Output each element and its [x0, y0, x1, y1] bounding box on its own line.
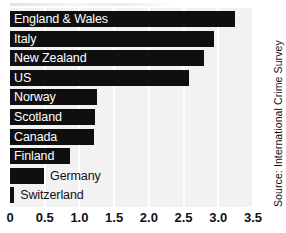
bar-row: Finland [10, 148, 253, 164]
source-note: Source: International Crime Survey [270, 8, 286, 207]
bar-row: Italy [10, 31, 253, 47]
bar-row: England & Wales [10, 11, 253, 27]
x-axis: 00.51.01.52.02.53.03.5 [0, 209, 286, 231]
x-tick-2.0: 2.0 [140, 209, 158, 227]
clipped-title-strip [10, 0, 253, 7]
bar-italy [10, 31, 214, 47]
x-tick-3.5: 3.5 [244, 209, 262, 227]
bar-label: Switzerland [20, 187, 84, 203]
x-tick-0.5: 0.5 [36, 209, 54, 227]
bar-us [10, 70, 189, 86]
bar-label: Finland [14, 148, 54, 164]
bar-chart: England & WalesItalyNew ZealandUSNorwayS… [0, 0, 286, 233]
bar-label: England & Wales [14, 11, 108, 27]
x-tick-2.5: 2.5 [175, 209, 193, 227]
plot-area: England & WalesItalyNew ZealandUSNorwayS… [10, 8, 253, 207]
bar-row: Norway [10, 89, 253, 105]
bar-row: Switzerland [10, 187, 253, 203]
bar-germany [10, 168, 44, 184]
x-tick-3.0: 3.0 [209, 209, 227, 227]
bar-rows: England & WalesItalyNew ZealandUSNorwayS… [10, 8, 253, 207]
bar-label: Canada [14, 129, 57, 145]
bar-row: New Zealand [10, 50, 253, 66]
clipped-title-smear [10, 3, 170, 6]
bar-row: US [10, 70, 253, 86]
bar-label: Norway [14, 89, 56, 105]
x-tick-1.5: 1.5 [105, 209, 123, 227]
bar-row: Germany [10, 168, 253, 184]
bar-switzerland [10, 187, 14, 203]
x-tick-1.0: 1.0 [70, 209, 88, 227]
bar-label: New Zealand [14, 50, 87, 66]
bar-row: Canada [10, 129, 253, 145]
bar-label: Italy [14, 31, 36, 47]
bar-row: Scotland [10, 109, 253, 125]
x-tick-0: 0 [6, 209, 13, 227]
source-note-label: Source: International Crime Survey [272, 40, 284, 207]
bar-label: Scotland [14, 109, 62, 125]
bar-label: Germany [50, 168, 101, 184]
bar-label: US [14, 70, 31, 86]
